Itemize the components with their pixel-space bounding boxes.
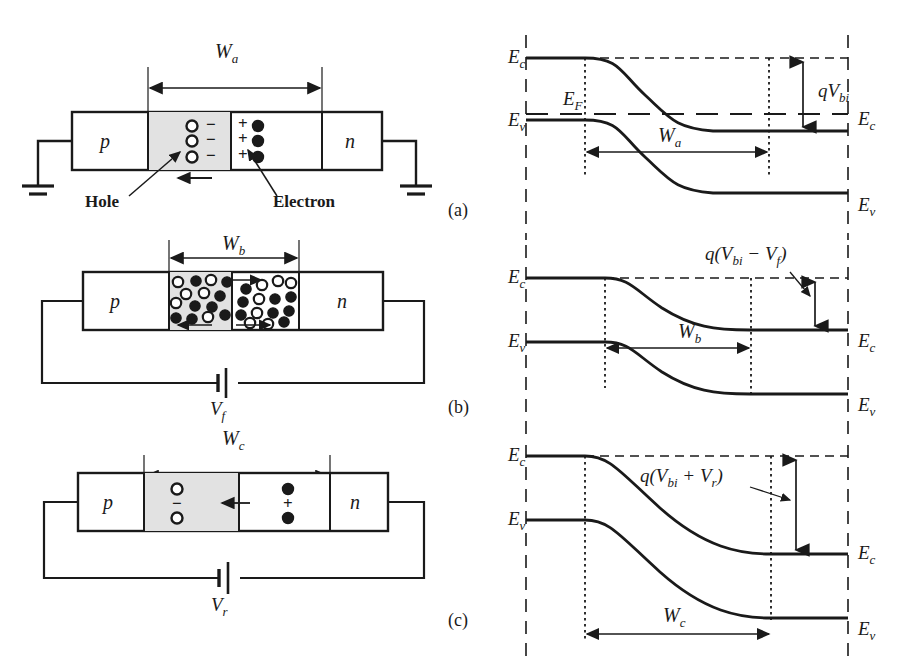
hole-annotation: Hole (85, 192, 119, 212)
device-diagrams (0, 0, 470, 672)
device-a-width-label: Wa (215, 40, 238, 67)
band-a-Ec-right-label: Ec (858, 108, 875, 134)
electron-annotation: Electron (273, 192, 335, 212)
band-c-Ec-right-label: Ec (858, 542, 875, 568)
panel-label-a: (a) (448, 200, 468, 221)
panel-label-c: (c) (448, 610, 468, 631)
band-b-Ev-left-label: Ev (508, 330, 525, 356)
band-a-width-label: Wa (658, 124, 681, 151)
device-a-n-label: n (345, 130, 355, 153)
device-c-n-label: n (350, 491, 360, 514)
device-b-n-label: n (337, 290, 347, 313)
device-a-minus-signs: −−− (206, 117, 216, 163)
device-a-p-label: p (100, 130, 110, 153)
electron-carriers-a (253, 121, 264, 163)
figure-canvas: p n Wa −−− +++ Hole Electron p n Wb Vf p… (0, 0, 910, 672)
ground-terminal-right-a (382, 141, 432, 194)
panel-label-b: (b) (448, 397, 469, 418)
band-diagram-a (526, 35, 848, 240)
band-a-Ec-left-label: Ec (508, 46, 525, 72)
band-a-barrier-label: qVbi (818, 80, 849, 106)
band-a-Ev-left-label: Ev (508, 109, 525, 135)
band-b-width-label: Wb (678, 320, 701, 347)
width-dimension-a (148, 67, 322, 112)
device-c-width-label: Wc (222, 427, 244, 454)
band-a-Ev-right-label: Ev (858, 194, 875, 220)
band-b-barrier-label: q(Vbi − Vf) (705, 243, 786, 269)
device-c-source-label: Vr (211, 594, 228, 620)
device-c-minus-sign: − (172, 494, 182, 514)
device-b (42, 240, 424, 398)
hole-carriers-a (187, 121, 198, 163)
band-c-barrier-label: q(Vbi + Vr) (640, 465, 723, 491)
device-b-width-label: Wb (222, 232, 245, 259)
band-c-Ec-left-label: Ec (508, 444, 525, 470)
device-b-p-label: p (110, 290, 120, 313)
band-c-Ev-right-label: Ev (858, 618, 875, 644)
device-b-source-label: Vf (210, 398, 225, 424)
band-a-Ef-label: EF (563, 88, 583, 114)
ground-terminal-left-a (22, 141, 72, 194)
device-c (44, 455, 424, 594)
band-b-Ec-right-label: Ec (858, 330, 875, 356)
band-b-Ev-right-label: Ev (858, 394, 875, 420)
device-c-p-label: p (103, 491, 113, 514)
band-b-Ec-left-label: Ec (508, 266, 525, 292)
device-c-plus-sign: + (283, 494, 293, 514)
device-a-plus-signs: +++ (238, 116, 248, 162)
band-c-Ev-left-label: Ev (508, 508, 525, 534)
band-c-width-label: Wc (663, 604, 685, 631)
device-a (22, 67, 432, 196)
